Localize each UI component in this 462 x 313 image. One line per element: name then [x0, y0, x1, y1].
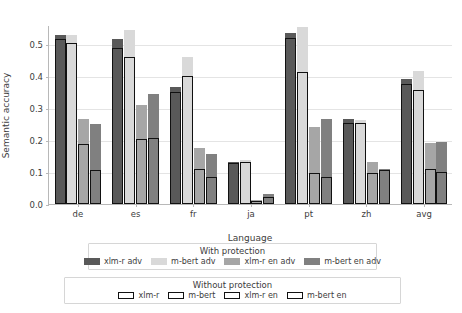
- legend-swatch-icon: [287, 292, 303, 299]
- x-tick-label: ja: [247, 209, 255, 219]
- legend-entry[interactable]: m-bert: [168, 291, 215, 300]
- x-tick-label: es: [131, 209, 141, 219]
- y-tick-mark: [46, 109, 49, 110]
- legend-entry[interactable]: xlm-r en: [224, 291, 277, 300]
- x-tick-mark: [136, 204, 137, 207]
- bar-outlined: [425, 169, 436, 204]
- bar-outlined: [413, 90, 424, 204]
- legend-entry[interactable]: xlm-r adv: [84, 257, 142, 266]
- bar-outlined: [436, 172, 447, 204]
- x-tick-label: fr: [190, 209, 197, 219]
- legend-without-protection: Without protection xlm-rm-bertxlm-r enm-…: [64, 277, 401, 304]
- legend-label: xlm-r: [138, 291, 159, 300]
- legend-swatch-icon: [224, 292, 240, 299]
- x-tick-mark: [251, 204, 252, 207]
- legend-swatch-icon: [224, 258, 240, 265]
- bar-outlined: [124, 57, 135, 204]
- legend-swatch-icon: [304, 258, 320, 265]
- legend-with-protection: With protection xlm-r advm-bert advxlm-r…: [88, 243, 377, 270]
- legend-entry[interactable]: xlm-r: [118, 291, 159, 300]
- gridline: [49, 45, 452, 46]
- bar-outlined: [90, 170, 101, 204]
- bar-outlined: [285, 38, 296, 204]
- bar-outlined: [78, 144, 89, 204]
- bar-outlined: [401, 84, 412, 204]
- legend-label: m-bert adv: [171, 257, 215, 266]
- y-tick-mark: [46, 77, 49, 78]
- bar-outlined: [170, 92, 181, 205]
- legend-swatch-icon: [118, 292, 134, 299]
- bar-outlined: [182, 76, 193, 204]
- x-tick-mark: [366, 204, 367, 207]
- y-tick-mark: [46, 141, 49, 142]
- bar-outlined: [355, 123, 366, 205]
- bar-outlined: [240, 162, 251, 205]
- legend-swatch-icon: [84, 258, 100, 265]
- bar-outlined: [194, 169, 205, 204]
- y-tick-label: 0.0: [29, 200, 43, 210]
- y-axis-label: Semantic accuracy: [0, 26, 13, 205]
- legend-label: m-bert en adv: [324, 257, 381, 266]
- bar-outlined: [66, 43, 77, 204]
- legend-entry[interactable]: m-bert en: [287, 291, 347, 300]
- bar-outlined: [263, 197, 274, 204]
- bar-outlined: [367, 173, 378, 204]
- bar-outlined: [148, 138, 159, 204]
- legend-label: m-bert: [188, 291, 215, 300]
- legend-label: xlm-r en adv: [244, 257, 295, 266]
- y-tick-label: 0.5: [29, 40, 43, 50]
- x-tick-label: de: [73, 209, 84, 219]
- bar-outlined: [309, 173, 320, 204]
- legend-title: With protection: [89, 244, 376, 257]
- x-axis-label: Language: [48, 233, 452, 243]
- bar-outlined: [228, 163, 239, 204]
- legend-label: xlm-r en: [244, 291, 277, 300]
- x-tick-mark: [309, 204, 310, 207]
- bar-outlined: [251, 201, 262, 204]
- bar-outlined: [206, 177, 217, 204]
- x-tick-label: avg: [416, 209, 432, 219]
- bar-outlined: [379, 170, 390, 204]
- legend-entries: xlm-r advm-bert advxlm-r en advm-bert en…: [89, 257, 376, 269]
- y-tick-mark: [46, 45, 49, 46]
- x-tick-mark: [193, 204, 194, 207]
- plot-area: 0.00.10.20.30.40.5 deesfrjaptzhavg: [48, 26, 452, 205]
- legend-swatch-icon: [151, 258, 167, 265]
- y-tick-label: 0.3: [29, 104, 43, 114]
- bar-outlined: [297, 72, 308, 204]
- x-tick-label: pt: [304, 209, 313, 219]
- x-tick-mark: [78, 204, 79, 207]
- bar-outlined: [55, 39, 66, 204]
- legend-label: m-bert en: [307, 291, 347, 300]
- legend-entry[interactable]: m-bert en adv: [304, 257, 381, 266]
- bar-chart-figure: Semantic accuracy 0.00.10.20.30.40.5 dee…: [0, 0, 462, 313]
- y-tick-mark: [46, 205, 49, 206]
- gridline: [49, 141, 452, 142]
- legend-entries: xlm-rm-bertxlm-r enm-bert en: [65, 291, 400, 303]
- legend-swatch-icon: [168, 292, 184, 299]
- y-tick-mark: [46, 173, 49, 174]
- x-tick-mark: [424, 204, 425, 207]
- bar-outlined: [136, 139, 147, 204]
- bar-outlined: [112, 48, 123, 204]
- bar-outlined: [343, 123, 354, 204]
- x-tick-label: zh: [361, 209, 371, 219]
- y-tick-label: 0.2: [29, 136, 43, 146]
- y-tick-label: 0.1: [29, 168, 43, 178]
- y-tick-label: 0.4: [29, 72, 43, 82]
- legend-title: Without protection: [65, 278, 400, 291]
- gridline: [49, 109, 452, 110]
- legend-entry[interactable]: m-bert adv: [151, 257, 215, 266]
- legend-label: xlm-r adv: [104, 257, 142, 266]
- legend-entry[interactable]: xlm-r en adv: [224, 257, 295, 266]
- bar-outlined: [321, 177, 332, 204]
- gridline: [49, 77, 452, 78]
